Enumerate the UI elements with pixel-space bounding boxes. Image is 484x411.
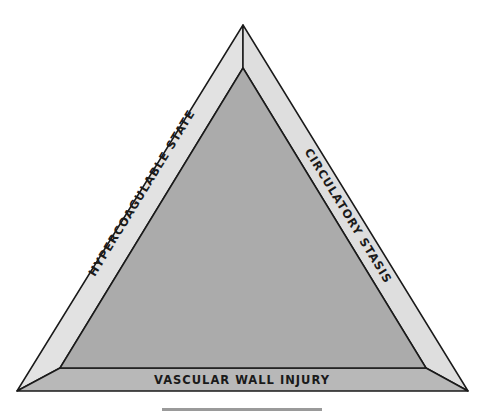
inner-triangle (60, 68, 426, 368)
label-vascular-wall-injury: VASCULAR WALL INJURY (154, 373, 330, 387)
triad-diagram: HYPERCOAGULABLE STATE CIRCULATORY STASIS… (0, 0, 484, 411)
